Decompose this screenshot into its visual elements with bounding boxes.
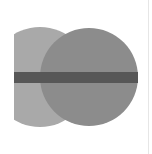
horizontal-bar-shape xyxy=(14,72,138,83)
overlapping-circles-icon xyxy=(0,0,152,154)
right-edge-divider xyxy=(148,0,149,154)
icon-canvas xyxy=(0,0,152,154)
